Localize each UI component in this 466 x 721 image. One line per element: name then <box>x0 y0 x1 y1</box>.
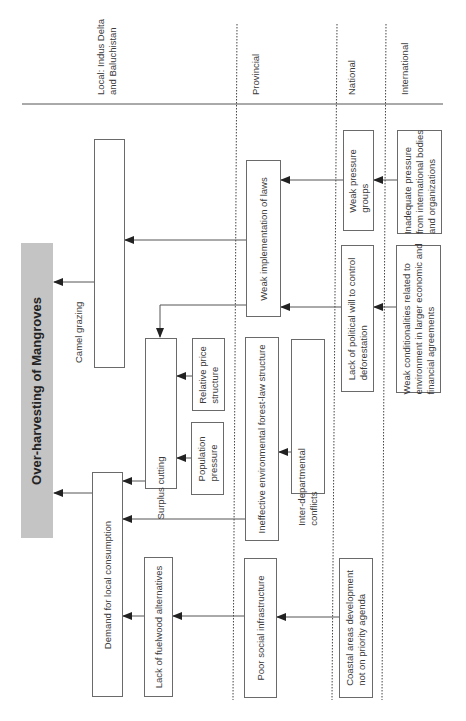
node-weak-conditionalities: Weak conditionalities related to environ… <box>396 245 441 393</box>
node-label: Coastal areas development not on priorit… <box>344 570 368 686</box>
node-inadequate-international-pressure: Inadequate pressure from international b… <box>397 130 442 234</box>
node-weak-implementation-of-laws: Weak implementation of laws <box>246 160 281 317</box>
level-label-international: International <box>399 43 411 95</box>
international-divider <box>382 24 386 700</box>
provincial-divider <box>233 24 237 700</box>
node-label: Population pressure <box>196 436 220 481</box>
node-label: Lack of political will to control defore… <box>346 257 370 380</box>
node-population-pressure: Population pressure <box>191 422 224 495</box>
outcome-box-over-harvesting: Over-harvesting of Mangroves <box>21 243 53 538</box>
node-inter-departmental-conflicts: Inter-departmental conflicts <box>291 339 325 494</box>
node-camel-grazing: Camel grazing <box>94 139 125 368</box>
node-label: Demand for local consumption <box>102 520 114 648</box>
node-label: Poor social infrastructure <box>255 575 267 680</box>
node-lack-fuelwood-alternatives: Lack of fuelwood alternatives <box>144 557 173 697</box>
node-label: Relative price structure <box>197 346 221 404</box>
node-label: Surplus cutting <box>155 457 167 520</box>
node-label: Camel grazing <box>73 302 85 363</box>
node-label: Weak pressure groups <box>347 149 371 213</box>
node-lack-political-will: Lack of political will to control defore… <box>341 245 374 392</box>
diagram-canvas: Local: Indus Delta and Baluchistan Provi… <box>0 0 466 721</box>
node-demand-local-consumption: Demand for local consumption <box>92 472 123 697</box>
node-weak-pressure-groups: Weak pressure groups <box>343 130 374 231</box>
national-divider <box>332 24 337 700</box>
node-label: Lack of fuelwood alternatives <box>153 566 165 689</box>
node-surplus-cutting: Surplus cutting <box>145 338 177 489</box>
node-coastal-areas-development: Coastal areas development not on priorit… <box>339 558 373 698</box>
edge-weakimpl-to-surplus <box>160 305 246 337</box>
level-label-national: National <box>346 60 358 95</box>
level-label-local: Local: Indus Delta and Baluchistan <box>95 19 119 95</box>
level-label-provincial: Provincial <box>250 54 262 95</box>
outcome-title: Over-harvesting of Mangroves <box>31 297 43 485</box>
node-label: Weak conditionalities related to environ… <box>401 243 437 394</box>
node-label: Ineffective environmental forest-law str… <box>256 345 268 534</box>
node-label: Inadequate pressure from international b… <box>402 130 438 234</box>
node-label: Weak implementation of laws <box>258 177 270 300</box>
node-relative-price-structure: Relative price structure <box>192 338 225 411</box>
node-ineffective-forest-law-structure: Ineffective environmental forest-law str… <box>245 337 279 541</box>
node-label: Inter-departmental conflicts <box>296 448 320 526</box>
node-poor-social-infrastructure: Poor social infrastructure <box>244 558 277 698</box>
